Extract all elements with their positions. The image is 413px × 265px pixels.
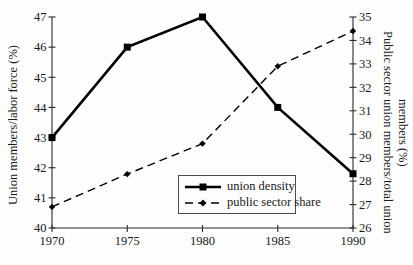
left-axis-tick-label: 44 [34, 101, 47, 115]
left-axis-tick-label: 47 [34, 10, 47, 24]
marker-square [124, 44, 131, 51]
left-axis-title: Union members/labor force (%) [6, 45, 21, 205]
x-axis-tick-label: 1975 [115, 234, 140, 248]
right-axis-tick-label: 34 [359, 34, 372, 48]
marker-square [199, 14, 206, 21]
right-axis-tick-label: 30 [359, 128, 372, 142]
left-axis-tick-label: 41 [34, 191, 47, 205]
marker-square [274, 104, 281, 111]
right-axis-tick-label: 32 [359, 81, 372, 95]
right-axis-tick-label: 33 [359, 57, 372, 71]
left-axis-title-wrap: Union members/labor force (%) [0, 0, 26, 250]
dashed-line-diamond-marker-icon [184, 198, 222, 208]
left-axis-tick-label: 46 [34, 40, 47, 54]
legend: union density public sector share [178, 175, 296, 214]
marker-diamond [275, 63, 281, 69]
solid-line-square-marker-icon [184, 182, 222, 192]
marker-diamond [199, 140, 205, 146]
marker-diamond [350, 28, 356, 34]
right-axis-tick-label: 29 [359, 151, 372, 165]
marker-diamond [49, 204, 55, 210]
x-axis-tick-label: 1990 [341, 234, 366, 248]
x-axis-tick-label: 1980 [190, 234, 215, 248]
right-axis-tick-label: 28 [359, 174, 372, 188]
marker-diamond [124, 171, 130, 177]
legend-label-union-density: union density [227, 179, 295, 194]
legend-label-public-sector-share: public sector share [227, 195, 321, 210]
right-axis-tick-label: 27 [359, 198, 372, 212]
left-axis-tick-label: 43 [34, 131, 47, 145]
right-axis-tick-label: 35 [359, 10, 372, 24]
legend-item-union-density: union density [184, 179, 290, 194]
right-axis-title-line1: Public sector union members/total union [380, 31, 395, 234]
left-axis-tick-label: 45 [34, 71, 47, 85]
right-axis-title-wrap: Public sector union members/total union … [377, 0, 413, 265]
series-line-union-density [52, 17, 353, 174]
chart-svg: 4041424344454647262728293031323334351970… [0, 0, 413, 265]
marker-square [350, 170, 357, 177]
left-axis-tick-label: 42 [34, 161, 47, 175]
x-axis-tick-label: 1985 [265, 234, 290, 248]
chart-container: 4041424344454647262728293031323334351970… [0, 0, 413, 265]
marker-square [49, 134, 56, 141]
right-axis-title-line2: members (%) [395, 31, 410, 234]
right-axis-title: Public sector union members/total union … [380, 31, 410, 234]
right-axis-tick-label: 31 [359, 104, 372, 118]
legend-item-public-sector-share: public sector share [184, 195, 290, 210]
x-axis-tick-label: 1970 [40, 234, 65, 248]
